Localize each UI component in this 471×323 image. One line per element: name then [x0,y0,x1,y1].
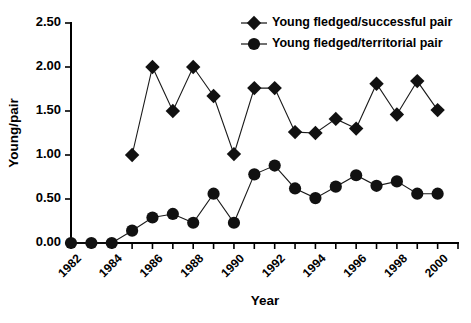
x-tick-label: 1996 [340,251,369,280]
y-axis-tick-labels: 0.000.501.001.502.002.50 [36,14,61,249]
x-tick-label: 1998 [381,251,410,280]
data-point-circle [432,188,444,200]
y-tick-label: 2.00 [36,58,61,73]
data-point-circle [85,237,97,249]
data-point-diamond [369,77,383,91]
data-point-circle [370,180,382,192]
data-point-diamond [308,126,322,140]
x-tick-label: 2000 [422,251,451,280]
data-point-circle [330,181,342,193]
data-point-diamond [247,81,261,95]
x-axis-title: Year [251,293,280,308]
legend-marker-diamond [247,16,261,30]
data-point-circle [167,208,179,220]
x-tick-label: 1994 [300,251,329,280]
y-tick-label: 1.50 [36,102,61,117]
data-point-diamond [349,121,363,135]
data-point-circle [65,237,77,249]
x-tick-label: 1982 [55,251,84,280]
y-axis-title: Young/pair [6,98,21,168]
series-2 [65,159,444,249]
chart-page: 0.000.501.001.502.002.50 198219841986198… [0,0,471,323]
data-point-circle [411,188,423,200]
data-point-circle [187,217,199,229]
legend-item-1[interactable]: Young fledged/successful pair [241,15,452,30]
data-point-circle [289,182,301,194]
data-point-circle [126,225,138,237]
data-point-circle [391,175,403,187]
data-point-circle [350,169,362,181]
legend-label: Young fledged/territorial pair [272,36,443,50]
y-tick-label: 0.00 [36,234,61,249]
x-tick-label: 1986 [137,251,166,280]
data-point-diamond [186,60,200,74]
series-1 [125,60,445,162]
data-point-circle [269,159,281,171]
data-point-circle [309,192,321,204]
data-point-diamond [410,74,424,88]
x-axis-tick-labels: 1982198419861988199019921994199619982000 [55,251,451,280]
y-tick-label: 1.00 [36,146,61,161]
data-point-circle [146,211,158,223]
x-tick-label: 1988 [178,251,207,280]
data-point-diamond [206,89,220,103]
legend-item-2[interactable]: Young fledged/territorial pair [241,36,443,50]
data-point-circle [228,217,240,229]
x-tick-label: 1990 [218,251,247,280]
legend-marker-circle [248,38,260,50]
x-tick-label: 1984 [96,251,125,280]
legend-label: Young fledged/successful pair [272,15,452,29]
data-point-circle [248,168,260,180]
data-point-diamond [430,103,444,117]
y-tick-label: 0.50 [36,190,61,205]
chart-legend: Young fledged/successful pairYoung fledg… [241,15,452,50]
data-series-group [65,60,445,249]
line-chart: 0.000.501.001.502.002.50 198219841986198… [0,0,471,323]
y-tick-label: 2.50 [36,14,61,29]
data-point-diamond [166,104,180,118]
data-point-diamond [390,107,404,121]
data-point-diamond [125,148,139,162]
x-tick-label: 1992 [259,251,288,280]
data-point-diamond [288,125,302,139]
data-point-circle [207,188,219,200]
data-point-diamond [267,81,281,95]
data-point-diamond [329,112,343,126]
data-point-circle [106,237,118,249]
data-point-diamond [227,147,241,161]
data-point-diamond [145,60,159,74]
